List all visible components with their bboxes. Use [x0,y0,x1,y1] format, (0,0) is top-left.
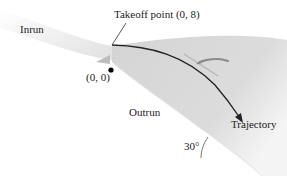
angle-label: 30° [184,141,199,152]
ski-jump-diagram: Inrun Takeoff point (0, 8) (0, 0) Outrun… [0,0,287,176]
angle-arc [201,137,208,158]
trajectory-label: Trajectory [231,119,276,130]
inrun-slope [0,10,112,60]
origin-label: (0, 0) [86,72,110,83]
takeoff-leader-line [112,23,126,45]
outrun-label: Outrun [129,107,160,118]
inrun-label: Inrun [20,24,44,35]
takeoff-point-label: Takeoff point (0, 8) [114,9,200,20]
